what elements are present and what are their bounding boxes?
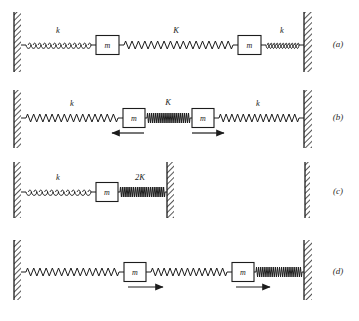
left-wall xyxy=(14,240,21,300)
right-wall xyxy=(304,240,312,300)
spring-k-right xyxy=(214,114,304,122)
mass-right: m xyxy=(238,36,261,55)
panel-label-c: (c) xyxy=(333,186,343,196)
middle-wall-hatch xyxy=(167,162,174,218)
spring-2K xyxy=(118,187,167,197)
mass-right-label: m xyxy=(240,268,246,277)
panel-label-a: (a) xyxy=(333,39,344,49)
panel-label-d: (d) xyxy=(333,266,344,276)
mass-left: m xyxy=(123,109,145,128)
spring-mass-figure: kmKmk(a)kmKmk(b)km2K(c)mm(d) xyxy=(0,0,359,321)
left-wall xyxy=(14,162,21,218)
left-wall-hatch xyxy=(14,240,21,300)
panel-b: kmKmk(b) xyxy=(14,90,343,148)
far-right-wall xyxy=(305,162,310,218)
spring-k-right-label: k xyxy=(256,98,260,108)
spring-K-middle xyxy=(119,41,238,49)
spring-right xyxy=(254,267,304,277)
spring-k xyxy=(21,190,96,195)
mass-right: m xyxy=(232,263,254,282)
spring-middle xyxy=(146,268,232,276)
far-right-wall-hatch xyxy=(305,162,310,218)
right-wall-hatch xyxy=(304,240,312,300)
mass-left-label: m xyxy=(132,268,138,277)
spring-k-left-label: k xyxy=(70,98,74,108)
spring-k-right xyxy=(261,43,304,48)
spring-K-middle-label: K xyxy=(172,25,180,35)
spring-K-middle xyxy=(145,113,192,123)
panel-label-b: (b) xyxy=(333,112,344,122)
left-wall-hatch xyxy=(14,12,21,72)
spring-2K-label: 2K xyxy=(135,172,146,182)
mass-left-label: m xyxy=(105,41,111,50)
panel-a: kmKmk(a) xyxy=(14,12,343,72)
right-wall-hatch xyxy=(304,90,312,148)
mass-left-label: m xyxy=(131,114,137,123)
spring-k-left xyxy=(21,43,96,48)
spring-k-left xyxy=(21,114,123,122)
left-wall-hatch xyxy=(14,162,21,218)
left-wall-hatch xyxy=(14,90,21,148)
spring-k-left-label: k xyxy=(56,25,60,35)
mass-right: m xyxy=(192,109,214,128)
panel-d: mm(d) xyxy=(14,240,343,300)
mass-label: m xyxy=(104,188,110,197)
figure-canvas: kmKmk(a)kmKmk(b)km2K(c)mm(d) xyxy=(0,0,359,321)
spring-K-middle-label: K xyxy=(164,97,172,107)
left-wall xyxy=(14,90,21,148)
middle-wall xyxy=(167,162,174,218)
spring-k-right-label: k xyxy=(280,25,284,35)
spring-k-label: k xyxy=(56,172,60,182)
spring-left xyxy=(21,268,124,276)
right-wall-hatch xyxy=(304,12,312,72)
mass-left: m xyxy=(124,263,146,282)
panel-c: km2K(c) xyxy=(14,162,343,218)
mass: m xyxy=(96,183,118,202)
mass-right-label: m xyxy=(247,41,253,50)
right-wall xyxy=(304,12,312,72)
right-wall xyxy=(304,90,312,148)
mass-right-label: m xyxy=(200,114,206,123)
left-wall xyxy=(14,12,21,72)
mass-left: m xyxy=(96,36,119,55)
